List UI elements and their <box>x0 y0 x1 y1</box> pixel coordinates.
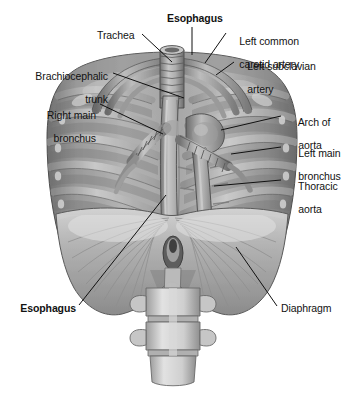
label-line-1: Arch of <box>298 116 331 128</box>
label-line-1: Brachiocephalic <box>35 70 108 82</box>
label-esophagus-bottom: Esophagus <box>11 303 76 315</box>
label-trachea: Trachea <box>97 30 134 42</box>
anatomy-figure: Esophagus Trachea Left common carotid ar… <box>0 0 345 396</box>
label-esophagus-top: Esophagus <box>167 13 223 25</box>
label-line-2: bronchus <box>54 132 96 144</box>
label-line-1: Left common <box>239 35 299 47</box>
label-line-1: Right main <box>47 109 96 121</box>
label-left-subclavian-artery: Left subclavian artery <box>236 49 316 107</box>
label-diaphragm: Diaphragm <box>281 303 331 315</box>
label-line-2: artery <box>247 83 273 95</box>
label-line-1: Left main <box>298 147 340 159</box>
label-thoracic-aorta: Thoracic aorta <box>287 169 338 227</box>
label-line-1: Left subclavian <box>247 60 316 72</box>
label-line-1: Thoracic <box>298 180 337 192</box>
label-line-2: aorta <box>298 203 321 215</box>
label-right-main-bronchus: Right main bronchus <box>16 98 96 156</box>
